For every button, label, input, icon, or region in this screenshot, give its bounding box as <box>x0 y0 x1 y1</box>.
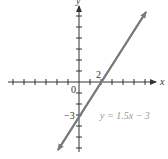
origin-label: 0 <box>71 84 76 95</box>
function-line-start <box>58 12 146 150</box>
equation-label: y = 1.5x − 3 <box>99 110 150 121</box>
y-intercept-label: −3 <box>64 110 75 121</box>
x-axis-label: x <box>159 76 165 87</box>
graph: x y 0 2 −3 y = 1.5x − 3 <box>0 0 168 159</box>
y-axis-label: y <box>75 0 81 6</box>
x-intercept-label: 2 <box>96 69 101 80</box>
